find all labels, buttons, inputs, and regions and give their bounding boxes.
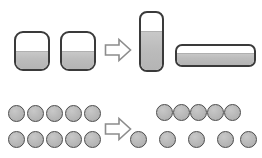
figure-canvas [0,0,262,158]
token-row-bottom-right [0,116,262,138]
token [159,131,176,148]
wide-flat-vessel [175,44,256,67]
token [240,131,257,148]
tall-narrow-vessel [139,11,164,72]
token [188,131,205,148]
token [217,131,234,148]
token [130,131,147,148]
wide-flat-vessel-liquid [177,53,254,65]
number-conservation-row [0,90,262,158]
liquid-after-group [0,0,262,90]
liquid-conservation-row [0,0,262,90]
tall-narrow-vessel-liquid [141,31,162,70]
token-row-top-right [0,90,262,112]
number-after-group [0,90,262,158]
